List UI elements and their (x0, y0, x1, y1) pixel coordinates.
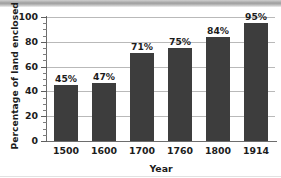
y-axis-tick-label: 20 (12, 110, 38, 121)
y-axis-tick-label: 80 (12, 36, 38, 47)
gridline (47, 67, 275, 68)
y-axis-title: Percentage of land enclosed (9, 10, 20, 150)
y-axis-tick-label: 40 (12, 85, 38, 96)
bar (244, 23, 268, 141)
x-axis-tick-label: 1914 (232, 145, 280, 156)
x-axis-title: Year (45, 163, 277, 174)
gridline (47, 116, 275, 117)
bar-value-label: 75% (160, 36, 200, 47)
y-axis-tick-label: 60 (12, 61, 38, 72)
y-axis-tick-major (41, 141, 47, 142)
bar-chart-figure: Percentage of land enclosed Year 0204060… (0, 0, 281, 178)
bar (54, 85, 78, 141)
bar-value-label: 47% (84, 71, 124, 82)
x-axis-line (44, 141, 277, 142)
y-axis-tick-label: 100 (12, 11, 38, 22)
bar-value-label: 84% (198, 25, 238, 36)
y-axis-tick-label: 0 (12, 135, 38, 146)
bar (206, 37, 230, 141)
page-strip-decoration (0, 0, 281, 7)
bar (92, 83, 116, 141)
bar-value-label: 95% (236, 11, 276, 22)
bar (130, 53, 154, 141)
page-bottom-rule (0, 176, 281, 177)
plot-area: 45%47%71%75%84%95% (47, 17, 275, 141)
bar (168, 48, 192, 141)
gridline (47, 91, 275, 92)
bar-value-label: 45% (46, 73, 86, 84)
bar-value-label: 71% (122, 41, 162, 52)
